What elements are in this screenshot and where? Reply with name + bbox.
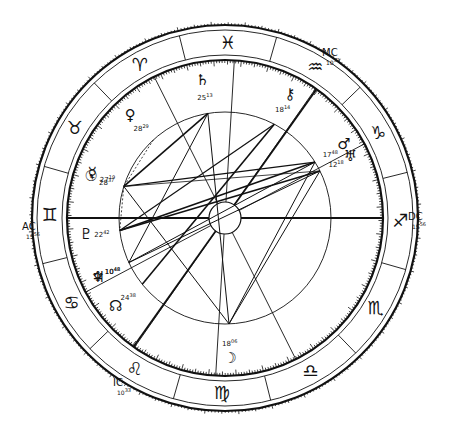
aspect-pluto-chiron <box>120 124 275 230</box>
sign-capricorn-icon: ♑︎ <box>370 122 386 143</box>
sign-aries-icon: ♈︎ <box>132 54 148 75</box>
sign-divider <box>383 172 407 178</box>
sign-leo-icon: ♌︎ <box>127 358 143 379</box>
angle-mc-degree: 1033 <box>326 57 340 66</box>
neptune-icon: ♆︎ <box>91 268 104 286</box>
sign-gemini-icon: ♊︎ <box>41 204 57 225</box>
angle-ic-label: IC <box>113 377 123 388</box>
sign-divider <box>342 87 360 104</box>
chiron-icon: ⚷︎ <box>285 85 296 103</box>
sign-pisces-icon: ♓︎ <box>220 32 236 53</box>
chiron-degree: 1814 <box>275 104 290 114</box>
sign-scorpio-icon: ♏︎ <box>367 297 383 318</box>
aspect-saturn-jupiter <box>129 113 208 262</box>
angle-ic-degree: 1033 <box>117 387 131 396</box>
sign-divider <box>90 331 108 348</box>
center-circle <box>209 202 241 234</box>
aspect-north-node-chiron <box>142 124 274 284</box>
aspect-sun-mars <box>124 162 315 186</box>
mars-degree: 1748 <box>323 149 338 159</box>
venus-icon: ♀︎ <box>125 106 136 124</box>
sign-sagittarius-icon: ♐︎ <box>392 210 408 231</box>
sign-aquarius-icon: ♒︎ <box>307 56 323 77</box>
natal-chart-wheel: ♈︎♉︎♊︎♋︎♌︎♍︎♎︎♏︎♐︎♑︎♒︎♓︎ ☉︎2837☽︎1806☿︎2… <box>0 0 449 435</box>
angle-dc-degree: 1556 <box>412 221 426 230</box>
aspect-venus-sun <box>124 140 154 187</box>
aspect-sun-uranus <box>124 171 320 187</box>
saturn-icon: ♄︎ <box>196 71 209 89</box>
sign-divider <box>265 376 271 400</box>
house-cusp-6 <box>232 232 296 359</box>
sign-cancer-icon: ♋︎ <box>64 292 80 313</box>
north-node-degree: 2438 <box>121 292 136 302</box>
moon-icon: ☽︎ <box>224 349 237 367</box>
pluto-icon: ♇︎ <box>79 225 92 243</box>
sign-divider <box>94 83 111 101</box>
aspect-moon-mars <box>229 162 315 324</box>
uranus-degree: 1218 <box>328 159 343 169</box>
pluto-degree: 2242 <box>94 229 109 239</box>
sign-taurus-icon: ♉︎ <box>66 117 82 138</box>
uranus-icon: ♅︎ <box>344 147 357 165</box>
sign-divider <box>179 36 185 60</box>
sign-libra-icon: ♎︎ <box>302 360 318 381</box>
sign-virgo-icon: ♍︎ <box>214 382 230 403</box>
sign-divider <box>382 263 406 270</box>
sign-divider <box>44 166 68 173</box>
sign-divider <box>338 335 355 353</box>
moon-degree: 1806 <box>222 338 237 348</box>
saturn-degree: 2513 <box>197 92 212 102</box>
aspect-jupiter-mars <box>129 162 315 263</box>
mercury-icon: ☿︎ <box>88 164 97 182</box>
sign-divider <box>173 375 180 399</box>
sign-divider <box>43 258 67 264</box>
sign-divider <box>270 37 277 61</box>
venus-degree: 2829 <box>133 123 148 133</box>
